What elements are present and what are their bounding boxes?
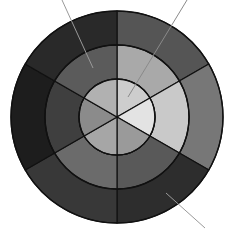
segments: [11, 11, 223, 223]
bullseye-diagram: [0, 0, 234, 235]
bullseye-chart: [0, 0, 234, 235]
